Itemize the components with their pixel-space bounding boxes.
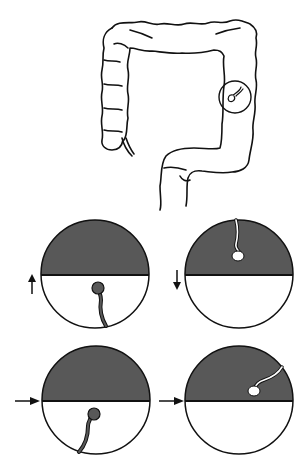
polyp-head [88, 408, 100, 420]
figure-canvas [0, 0, 302, 465]
panel-3 [15, 346, 150, 454]
panel-1 [28, 220, 149, 328]
arrow-right-icon [15, 397, 40, 405]
polyp-head [232, 251, 244, 261]
colon-illustration [101, 20, 256, 210]
arrow-right-icon [159, 397, 184, 405]
colon-polyp [228, 87, 243, 102]
panel-2 [173, 220, 293, 328]
arrow-down-icon [173, 270, 181, 290]
panel-4 [159, 346, 293, 454]
polyp-head [248, 386, 260, 396]
polyp-head [92, 282, 104, 294]
arrow-up-icon [28, 274, 36, 294]
